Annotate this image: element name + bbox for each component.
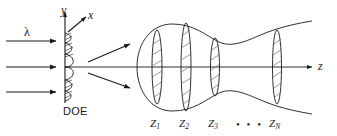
envelope-upper xyxy=(137,21,312,67)
plane-label-z2: Z2 xyxy=(179,118,189,130)
plane-hatching-z1 xyxy=(152,39,162,97)
plane-label-zN: ZN xyxy=(269,118,280,130)
plane-label-z3: Z3 xyxy=(208,118,218,130)
incident-beam-arrows xyxy=(6,41,56,92)
ray-arrow-upper xyxy=(88,44,130,62)
doe-zone-3 xyxy=(65,54,73,67)
doe-optical-diagram: y x z λ DOE Z1 Z2 Z3 • • • ZN xyxy=(0,0,337,136)
y-axis-label: y xyxy=(61,4,66,16)
beam-envelope xyxy=(137,21,312,114)
ray-arrow-lower xyxy=(88,73,130,88)
doe-zone-4 xyxy=(65,67,73,80)
plane-label-z1: Z1 xyxy=(150,118,160,130)
coordinate-axes xyxy=(65,12,312,103)
diverging-ray-arrows xyxy=(88,44,130,88)
z-axis-label: z xyxy=(318,60,323,72)
doe-label: DOE xyxy=(63,106,87,117)
diagram-canvas xyxy=(0,0,337,136)
x-axis-label: x xyxy=(88,9,93,21)
wavelength-label: λ xyxy=(24,26,30,38)
envelope-lower xyxy=(137,67,312,114)
x-axis xyxy=(68,17,86,32)
ellipsis-label: • • • xyxy=(236,119,263,130)
